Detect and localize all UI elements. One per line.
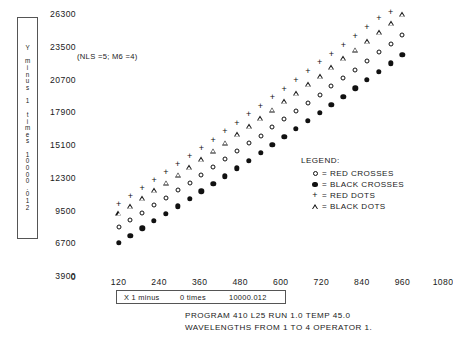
x-tick-label: 720: [314, 277, 330, 287]
data-point: [163, 211, 168, 216]
data-point: [293, 90, 299, 95]
data-point: +: [340, 41, 347, 48]
data-point: [151, 218, 156, 223]
legend-item: += RED DOTS: [301, 190, 404, 201]
y-tick-label: 20700: [16, 75, 76, 85]
y-tick-label: 12300: [16, 173, 76, 183]
data-point: [376, 30, 382, 35]
data-point: [234, 166, 239, 171]
x-caption-part2: 0 times: [180, 293, 206, 302]
data-point: [140, 210, 145, 215]
data-point: [364, 38, 370, 43]
data-point: +: [139, 185, 146, 192]
data-point: [352, 86, 357, 91]
data-point: [399, 12, 405, 17]
data-point: [116, 240, 121, 245]
data-point: [388, 21, 394, 26]
data-point: [281, 134, 286, 139]
data-point: [328, 65, 334, 70]
data-point: [139, 196, 145, 201]
x-axis-ticks: 1202403604806007208409601080: [0, 277, 449, 291]
data-point: [340, 56, 346, 61]
data-point: [388, 41, 393, 46]
data-point: [329, 84, 334, 89]
data-point: [187, 180, 192, 185]
data-point: [175, 188, 180, 193]
x-tick-label: 840: [354, 277, 370, 287]
data-point: +: [363, 23, 370, 30]
x-caption-part3: 10000.012: [229, 293, 267, 302]
data-point: [293, 109, 298, 114]
data-point: [210, 181, 215, 186]
y-tick-label: 17900: [16, 107, 76, 117]
data-point: [305, 118, 310, 123]
legend-open-circle-icon: [309, 168, 321, 179]
data-point: [163, 180, 169, 185]
data-point: +: [316, 59, 323, 66]
y-tick-label: 9500: [16, 206, 76, 216]
data-point: +: [162, 169, 169, 176]
data-point: [364, 77, 369, 82]
x-tick-label: 480: [232, 277, 248, 287]
data-point: [234, 132, 240, 137]
data-point: +: [292, 76, 299, 83]
legend: LEGEND: = RED CROSSES= BLACK CROSSES+= R…: [301, 156, 404, 212]
data-point: [127, 203, 133, 208]
data-point: +: [174, 161, 181, 168]
data-point: +: [127, 193, 134, 200]
legend-item-label: = BLACK DOTS: [322, 202, 386, 211]
legend-item-label: = RED CROSSES: [322, 169, 394, 178]
data-point: [128, 233, 133, 238]
data-point: [352, 47, 358, 52]
legend-plus-icon: +: [309, 190, 321, 201]
data-point: [329, 102, 334, 107]
data-point: +: [352, 32, 359, 39]
footer-line-1: PROGRAM 410 L25 RUN 1.0 TEMP 45.0: [185, 310, 372, 322]
data-point: [258, 150, 263, 155]
x-tick-label: 360: [192, 277, 208, 287]
data-point: [341, 94, 346, 99]
data-point: [187, 196, 192, 201]
data-point: [199, 189, 204, 194]
data-point: [175, 172, 181, 177]
y-tick-label: 6700: [16, 238, 76, 248]
x-tick-label: 240: [151, 277, 167, 287]
data-point: [270, 125, 275, 130]
footer-line-2: WAVELENGTHS FROM 1 TO 4 OPERATOR 1.: [185, 322, 372, 334]
data-point: [270, 142, 275, 147]
legend-item-label: = RED DOTS: [322, 191, 375, 200]
data-point: [388, 60, 393, 65]
legend-item-label: = BLACK CROSSES: [322, 180, 404, 189]
data-point: +: [115, 201, 122, 208]
plot-area: ++++++++++++++++++++++++: [78, 14, 443, 276]
data-point: [222, 173, 227, 178]
data-point: +: [151, 177, 158, 184]
data-point: [151, 188, 157, 193]
data-point: [163, 195, 168, 200]
legend-triangle-icon: [309, 201, 321, 212]
x-axis-caption-box: X 1 minus 0 times 10000.012: [116, 290, 286, 304]
legend-item: = RED CROSSES: [301, 168, 404, 179]
data-point: [317, 110, 322, 115]
data-point: [305, 82, 311, 87]
data-point: [400, 52, 405, 57]
data-point: [293, 126, 298, 131]
data-point: [116, 211, 122, 216]
data-point: +: [233, 119, 240, 126]
data-point: [400, 33, 405, 38]
x-tick-label: 600: [273, 277, 289, 287]
data-point: [341, 75, 346, 80]
data-point: [376, 69, 381, 74]
y-tick-label: 23500: [16, 42, 76, 52]
y-tick-label: 15100: [16, 140, 76, 150]
y-axis-ticks: 3900670095001230015100179002070023500263…: [10, 0, 76, 300]
footer-text: PROGRAM 410 L25 RUN 1.0 TEMP 45.0 WAVELE…: [185, 310, 372, 334]
data-point: [305, 101, 310, 106]
data-point: [281, 99, 287, 104]
data-point: [152, 203, 157, 208]
data-point: +: [281, 85, 288, 92]
data-point: [246, 158, 251, 163]
data-point: +: [328, 50, 335, 57]
data-point: [175, 204, 180, 209]
